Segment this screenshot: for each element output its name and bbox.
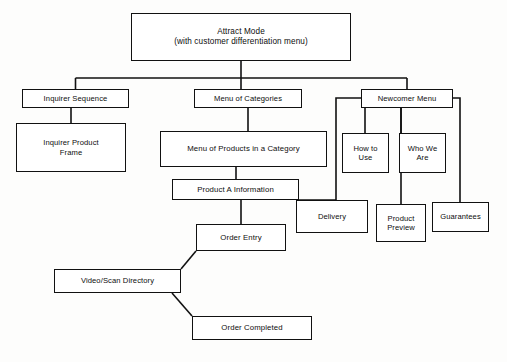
node-how-to-use-label: How to Use <box>350 144 380 163</box>
node-product-a-information-label: Product A Information <box>194 185 277 195</box>
edge-video-scan-to-order-completed <box>172 293 192 316</box>
node-who-we-are-label: Who We Are <box>405 144 441 163</box>
node-delivery-label: Delivery <box>315 212 349 221</box>
node-menu-of-categories-label: Menu of Categories <box>211 94 285 103</box>
node-order-entry-label: Order Entry <box>217 233 264 243</box>
edge-order-entry-to-video-scan <box>181 251 196 269</box>
node-product-preview-label: Product Preview <box>384 214 418 233</box>
node-order-completed-label: Order Completed <box>218 323 285 333</box>
node-who-we-are[interactable]: Who We Are <box>399 133 446 173</box>
node-video-scan-directory[interactable]: Video/Scan Directory <box>54 269 181 293</box>
edge-newcomer-right-arm <box>453 98 460 202</box>
node-how-to-use[interactable]: How to Use <box>342 133 389 173</box>
node-attract-mode[interactable]: Attract Mode (with customer differentiat… <box>131 13 351 61</box>
node-menu-of-categories[interactable]: Menu of Categories <box>194 89 302 108</box>
node-product-a-information[interactable]: Product A Information <box>172 179 299 200</box>
node-inquirer-sequence[interactable]: Inquirer Sequence <box>22 89 129 108</box>
node-video-scan-directory-label: Video/Scan Directory <box>78 276 157 285</box>
node-order-entry[interactable]: Order Entry <box>196 224 286 251</box>
node-attract-mode-label: Attract Mode (with customer differentiat… <box>171 27 311 47</box>
node-delivery[interactable]: Delivery <box>296 200 368 233</box>
node-inquirer-sequence-label: Inquirer Sequence <box>41 94 111 103</box>
node-inquirer-product-frame[interactable]: Inquirer Product Frame <box>16 123 126 172</box>
node-newcomer-menu[interactable]: Newcomer Menu <box>361 89 453 108</box>
node-guarantees-label: Guarantees <box>437 212 484 221</box>
node-inquirer-product-frame-label: Inquirer Product Frame <box>40 138 102 157</box>
node-product-preview[interactable]: Product Preview <box>376 204 426 242</box>
node-guarantees[interactable]: Guarantees <box>432 202 489 232</box>
node-newcomer-menu-label: Newcomer Menu <box>375 94 440 103</box>
diagram-canvas: Attract Mode (with customer differentiat… <box>0 0 507 362</box>
node-order-completed[interactable]: Order Completed <box>192 316 312 340</box>
node-menu-of-products-label: Menu of Products in a Category <box>184 144 303 154</box>
node-menu-of-products[interactable]: Menu of Products in a Category <box>160 131 327 167</box>
